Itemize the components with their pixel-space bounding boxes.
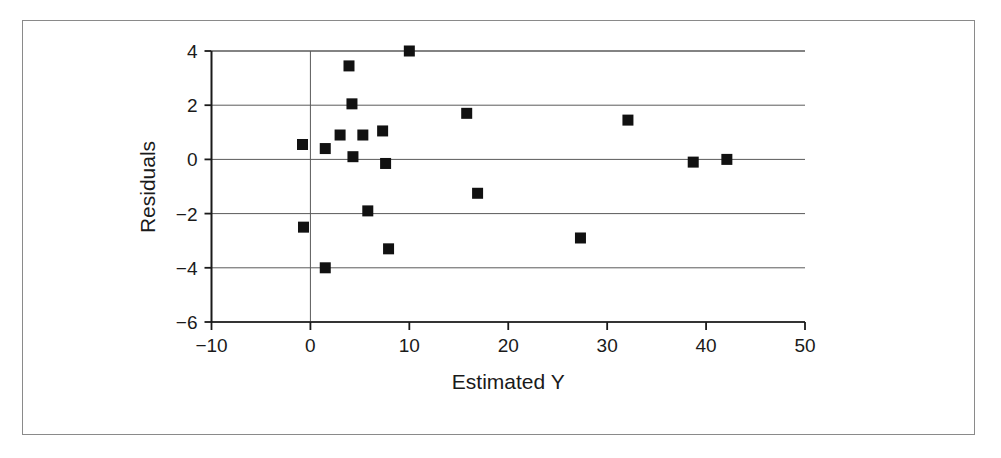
data-point [320, 143, 331, 154]
axes [212, 51, 806, 322]
tick-marks [205, 51, 806, 330]
x-tick-label: 50 [794, 336, 815, 355]
y-tick-label: −6 [176, 313, 198, 332]
data-point [320, 262, 331, 273]
data-point [335, 130, 346, 141]
data-point [622, 115, 633, 126]
residual-scatter-plot: −1001020304050−6−4−2024Estimated YResidu… [0, 0, 1001, 458]
data-point [297, 139, 308, 150]
y-tick-label: 0 [187, 150, 198, 169]
data-point [362, 205, 373, 216]
x-tick-label: −10 [195, 336, 227, 355]
y-tick-label: −4 [176, 258, 198, 277]
x-tick-label: 0 [305, 336, 316, 355]
gridlines [212, 51, 806, 322]
y-tick-label: −2 [176, 204, 198, 223]
x-tick-label: 40 [696, 336, 717, 355]
data-point [688, 157, 699, 168]
x-tick-label: 10 [399, 336, 420, 355]
y-tick-label: 2 [187, 96, 198, 115]
y-tick-label: 4 [187, 42, 198, 61]
data-point [461, 108, 472, 119]
data-point [377, 125, 388, 136]
x-tick-label: 20 [498, 336, 519, 355]
data-point [472, 188, 483, 199]
data-point [721, 154, 732, 165]
data-point [383, 243, 394, 254]
x-axis-title: Estimated Y [452, 370, 565, 394]
x-tick-label: 30 [597, 336, 618, 355]
data-point [357, 130, 368, 141]
data-point [575, 232, 586, 243]
data-point [298, 222, 309, 233]
y-axis-title: Residuals [136, 140, 160, 232]
data-point [404, 46, 415, 57]
data-point [380, 158, 391, 169]
data-point [346, 98, 357, 109]
data-point [343, 60, 354, 71]
data-point [347, 151, 358, 162]
